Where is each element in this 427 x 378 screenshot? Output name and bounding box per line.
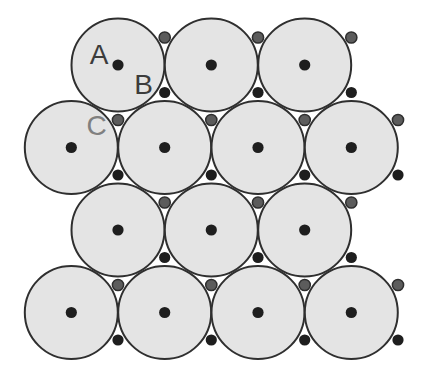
a-site-dot bbox=[252, 307, 263, 318]
b-site-dot bbox=[252, 87, 263, 98]
c-site-dot bbox=[112, 114, 123, 125]
b-site-dot bbox=[112, 334, 123, 345]
b-site-dot bbox=[206, 334, 217, 345]
b-site-dot bbox=[206, 169, 217, 180]
site-label-c: C bbox=[86, 110, 106, 141]
a-site-dot bbox=[66, 307, 77, 318]
close-packing-diagram: ABC bbox=[0, 0, 427, 378]
c-site-dot bbox=[252, 32, 263, 43]
site-label-a: A bbox=[90, 39, 109, 70]
a-site-dot bbox=[66, 142, 77, 153]
c-site-dot bbox=[299, 114, 310, 125]
b-site-dot bbox=[112, 169, 123, 180]
b-site-dot bbox=[299, 169, 310, 180]
a-site-dot bbox=[206, 224, 217, 235]
a-site-dot bbox=[112, 59, 123, 70]
a-site-dot bbox=[299, 59, 310, 70]
a-site-dot bbox=[252, 142, 263, 153]
b-site-dot bbox=[392, 169, 403, 180]
b-site-dot bbox=[159, 87, 170, 98]
site-label-b: B bbox=[134, 69, 153, 100]
a-site-dot bbox=[159, 142, 170, 153]
c-site-dot bbox=[159, 197, 170, 208]
b-site-dot bbox=[252, 252, 263, 263]
a-site-dot bbox=[206, 59, 217, 70]
c-site-dot bbox=[299, 279, 310, 290]
c-site-dot bbox=[392, 114, 403, 125]
b-site-dot bbox=[346, 252, 357, 263]
c-site-dot bbox=[392, 279, 403, 290]
b-site-dot bbox=[392, 334, 403, 345]
a-site-dot bbox=[159, 307, 170, 318]
b-site-dot bbox=[299, 334, 310, 345]
c-site-dot bbox=[159, 32, 170, 43]
close-packing-svg: ABC bbox=[0, 0, 427, 378]
b-site-dot bbox=[346, 87, 357, 98]
b-site-dot bbox=[159, 252, 170, 263]
c-site-dot bbox=[206, 279, 217, 290]
c-site-dot bbox=[206, 114, 217, 125]
c-site-dot bbox=[346, 197, 357, 208]
c-site-dot bbox=[112, 279, 123, 290]
c-site-dot bbox=[252, 197, 263, 208]
a-site-dot bbox=[299, 224, 310, 235]
a-site-dot bbox=[346, 142, 357, 153]
a-site-dot bbox=[346, 307, 357, 318]
a-site-dot bbox=[112, 224, 123, 235]
c-site-dot bbox=[346, 32, 357, 43]
